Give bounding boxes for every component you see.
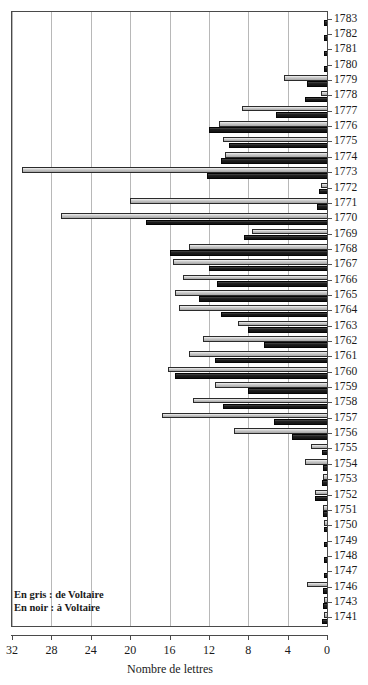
- year-label-1761: 1761: [334, 350, 357, 361]
- bar-row: [12, 104, 327, 119]
- bar-row: [12, 119, 327, 134]
- bar-black-1767: [209, 266, 327, 272]
- bar-black-1769: [244, 235, 327, 241]
- year-label-1769: 1769: [334, 228, 357, 239]
- year-label-1778: 1778: [334, 89, 357, 100]
- bar-black-1773: [207, 173, 327, 179]
- year-tick-1775: [328, 141, 332, 142]
- x-tick-20: [130, 635, 131, 640]
- year-label-1764: 1764: [334, 304, 357, 315]
- year-label-1779: 1779: [334, 74, 357, 85]
- bar-black-1764: [221, 312, 327, 318]
- year-label-1774: 1774: [334, 151, 357, 162]
- year-tick-1777: [328, 111, 332, 112]
- year-tick-1780: [328, 65, 332, 66]
- bar-grey-1741: [324, 612, 327, 618]
- bar-row: [12, 273, 327, 288]
- legend-item-black: En noir : à Voltaire: [14, 601, 104, 614]
- bar-grey-1750: [324, 520, 327, 526]
- bar-black-1747: [324, 573, 327, 579]
- year-tick-1751: [328, 510, 332, 511]
- bar-grey-1759: [215, 382, 327, 388]
- year-tick-1758: [328, 402, 332, 403]
- bar-grey-1768: [189, 244, 327, 250]
- year-tick-1763: [328, 326, 332, 327]
- x-tick-16: [170, 635, 171, 640]
- bar-row: [12, 288, 327, 303]
- year-tick-1773: [328, 172, 332, 173]
- plot-area: [11, 11, 328, 627]
- bar-grey-1751: [323, 505, 327, 511]
- year-tick-1741: [328, 617, 332, 618]
- bar-black-1761: [215, 358, 327, 364]
- bar-row: [12, 350, 327, 365]
- year-tick-1752: [328, 495, 332, 496]
- year-tick-1750: [328, 525, 332, 526]
- year-tick-1762: [328, 341, 332, 342]
- bar-row: [12, 150, 327, 165]
- bar-row: [12, 258, 327, 273]
- bar-black-1754: [323, 465, 327, 471]
- year-label-1782: 1782: [334, 28, 357, 39]
- bar-black-1743: [323, 603, 327, 609]
- bar-grey-1755: [311, 444, 327, 450]
- bar-grey-1775: [223, 137, 327, 143]
- bar-row: [12, 565, 327, 580]
- bar-black-1776: [209, 127, 327, 133]
- year-label-1776: 1776: [334, 120, 357, 131]
- bar-grey-1766: [183, 275, 327, 281]
- bar-black-1771: [317, 204, 327, 210]
- year-label-1746: 1746: [334, 581, 357, 592]
- bar-row: [12, 503, 327, 518]
- bar-row: [12, 396, 327, 411]
- chart-legend: En gris : de Voltaire En noir : à Voltai…: [14, 588, 104, 614]
- x-tick-0: [327, 635, 328, 640]
- bar-black-1750: [324, 527, 327, 533]
- year-label-1753: 1753: [334, 473, 357, 484]
- x-tick-12: [209, 635, 210, 640]
- bar-grey-1777: [242, 106, 327, 112]
- year-label-1777: 1777: [334, 105, 357, 116]
- x-tick-28: [51, 635, 52, 640]
- x-tick-4: [288, 635, 289, 640]
- year-label-1757: 1757: [334, 412, 357, 423]
- bar-row: [12, 304, 327, 319]
- bar-black-1779: [307, 81, 327, 87]
- year-label-1762: 1762: [334, 335, 357, 346]
- year-tick-1749: [328, 541, 332, 542]
- x-tick-label-12: 12: [203, 643, 215, 658]
- year-tick-1766: [328, 280, 332, 281]
- bar-black-1774: [221, 158, 327, 164]
- bar-grey-1761: [189, 351, 327, 357]
- year-label-1743: 1743: [334, 596, 357, 607]
- year-label-1748: 1748: [334, 550, 357, 561]
- bar-row: [12, 488, 327, 503]
- year-tick-1765: [328, 295, 332, 296]
- year-label-1770: 1770: [334, 212, 357, 223]
- bar-grey-1757: [162, 413, 327, 419]
- bar-row: [12, 58, 327, 73]
- bar-grey-1762: [203, 336, 327, 342]
- x-axis-title: Nombre de lettres: [0, 662, 340, 677]
- x-tick-8: [248, 635, 249, 640]
- year-tick-1748: [328, 556, 332, 557]
- year-label-1773: 1773: [334, 166, 357, 177]
- bar-black-1756: [292, 434, 327, 440]
- bar-row: [12, 380, 327, 395]
- x-tick-label-4: 4: [285, 643, 291, 658]
- year-label-1783: 1783: [334, 13, 357, 24]
- bar-row: [12, 365, 327, 380]
- bar-row: [12, 426, 327, 441]
- bar-black-1758: [223, 404, 327, 410]
- year-tick-1770: [328, 218, 332, 219]
- year-label-1750: 1750: [334, 519, 357, 530]
- bar-black-1770: [146, 220, 327, 226]
- bar-row: [12, 227, 327, 242]
- year-label-1775: 1775: [334, 135, 357, 146]
- year-label-1766: 1766: [334, 274, 357, 285]
- bar-black-1757: [274, 419, 327, 425]
- x-tick-label-0: 0: [324, 643, 330, 658]
- bar-row: [12, 166, 327, 181]
- bar-row: [12, 519, 327, 534]
- year-label-1759: 1759: [334, 381, 357, 392]
